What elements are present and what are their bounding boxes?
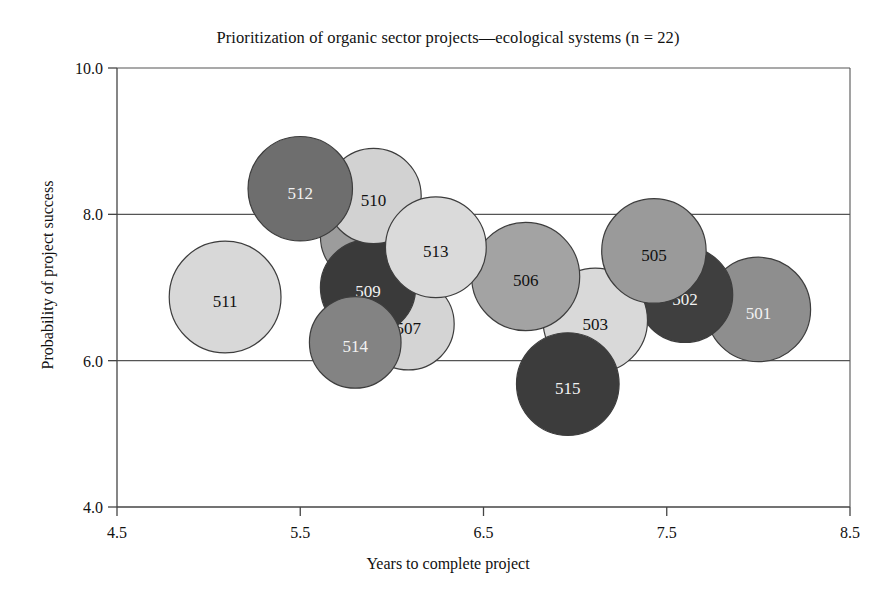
svg-text:6.0: 6.0 — [83, 353, 103, 370]
bubble-label-511: 511 — [213, 292, 238, 311]
bubble-506[interactable]: 506 — [472, 222, 580, 330]
bubble-label-514: 514 — [342, 337, 368, 356]
bubble-label-513: 513 — [423, 242, 449, 261]
bubble-label-512: 512 — [288, 184, 314, 203]
bubble-label-503: 503 — [583, 315, 609, 334]
bubble-512[interactable]: 512 — [248, 136, 352, 240]
bubble-514[interactable]: 514 — [309, 297, 401, 389]
bubble-label-515: 515 — [555, 379, 581, 398]
bubble-label-510: 510 — [361, 191, 387, 210]
bubble-513[interactable]: 513 — [385, 197, 486, 298]
bubble-label-505: 505 — [641, 246, 667, 265]
bubble-label-501: 501 — [746, 304, 772, 323]
svg-text:6.5: 6.5 — [474, 524, 494, 541]
bubble-515[interactable]: 515 — [516, 333, 619, 436]
svg-text:8.5: 8.5 — [840, 524, 860, 541]
svg-text:4.0: 4.0 — [83, 499, 103, 516]
bubble-label-506: 506 — [513, 271, 539, 290]
svg-text:7.5: 7.5 — [657, 524, 677, 541]
bubble-series: 5015025035045055065075095105115125135145… — [169, 136, 810, 435]
svg-text:4.5: 4.5 — [107, 524, 127, 541]
x-axis-title: Years to complete project — [0, 555, 896, 573]
svg-text:5.5: 5.5 — [290, 524, 310, 541]
bubble-chart: Prioritization of organic sector project… — [0, 0, 896, 605]
svg-text:8.0: 8.0 — [83, 206, 103, 223]
plot-area: 4.06.08.010.04.55.56.57.58.5 50150250350… — [0, 0, 896, 605]
svg-text:10.0: 10.0 — [75, 60, 103, 77]
bubble-511[interactable]: 511 — [169, 241, 281, 353]
bubble-505[interactable]: 505 — [602, 199, 706, 303]
